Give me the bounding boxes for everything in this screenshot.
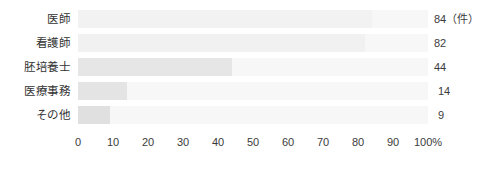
value-label-doctor: 84（件） (434, 10, 499, 28)
category-label-doctor: 医師 (0, 10, 70, 28)
bar-row (78, 10, 428, 28)
x-axis-tick-label: 40 (212, 136, 224, 148)
x-axis-tick-label: 50 (247, 136, 259, 148)
bar-row (78, 58, 428, 76)
value-labels: 84（件） 82 44 14 9 (434, 10, 499, 130)
category-axis-labels: 医師 看護師 胚培養士 医療事務 その他 (0, 10, 70, 130)
horizontal-bar-chart: 医師 看護師 胚培養士 医療事務 その他 84（件） 82 44 14 9 01… (0, 0, 499, 177)
category-label-embryologist: 胚培養士 (0, 58, 70, 76)
category-label-medical-clerk: 医療事務 (0, 82, 70, 100)
value-label-nurse: 82 (434, 34, 499, 52)
x-axis-tick-label: 80 (352, 136, 364, 148)
plot-area (78, 10, 428, 130)
x-axis-tick-label: 10 (107, 136, 119, 148)
category-label-nurse: 看護師 (0, 34, 70, 52)
bar-fill-embryologist (78, 58, 232, 76)
bar-fill-other (78, 106, 110, 124)
x-axis-tick-label: 20 (142, 136, 154, 148)
bar-fill-nurse (78, 34, 365, 52)
x-axis-tick-label: 90 (387, 136, 399, 148)
bar-row (78, 34, 428, 52)
value-label-other: 9 (434, 106, 499, 124)
value-label-medical-clerk: 14 (434, 82, 499, 100)
bar-row (78, 82, 428, 100)
x-axis-tick-label: 30 (177, 136, 189, 148)
category-label-other: その他 (0, 106, 70, 124)
x-axis-tick-label: 100% (414, 136, 442, 148)
x-axis-tick-label: 0 (75, 136, 81, 148)
bar-row (78, 106, 428, 124)
bar-fill-medical-clerk (78, 82, 127, 100)
x-axis-tick-label: 60 (282, 136, 294, 148)
x-axis-tick-label: 70 (317, 136, 329, 148)
value-label-embryologist: 44 (434, 58, 499, 76)
x-axis: 0102030405060708090100% (78, 136, 428, 156)
bar-fill-doctor (78, 10, 372, 28)
